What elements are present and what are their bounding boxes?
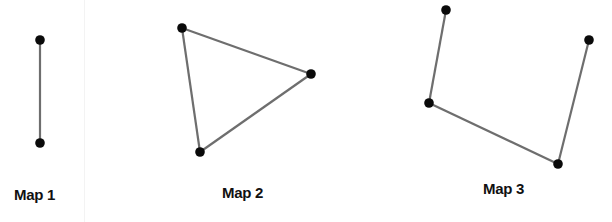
edge-line	[182, 28, 200, 152]
node-dot	[306, 69, 316, 79]
edge-line	[182, 28, 311, 74]
map-1-label: Map 1	[14, 186, 55, 203]
node-dot	[35, 35, 45, 45]
map-1-graph	[35, 35, 45, 148]
edge-line	[429, 103, 558, 164]
node-dot	[177, 23, 187, 33]
map-2-graph	[177, 23, 316, 157]
node-dot	[584, 35, 594, 45]
map-3-graph	[424, 5, 594, 169]
node-dot	[35, 138, 45, 148]
edge-line	[558, 40, 589, 164]
node-dot	[424, 98, 434, 108]
edge-line	[429, 10, 446, 103]
maps-figure: Map 1 Map 2 Map 3	[0, 0, 612, 222]
node-dot	[553, 159, 563, 169]
map-2-label: Map 2	[222, 184, 263, 201]
node-dot	[441, 5, 451, 15]
edge-line	[200, 74, 311, 152]
map-3-label: Map 3	[483, 180, 524, 197]
node-dot	[195, 147, 205, 157]
